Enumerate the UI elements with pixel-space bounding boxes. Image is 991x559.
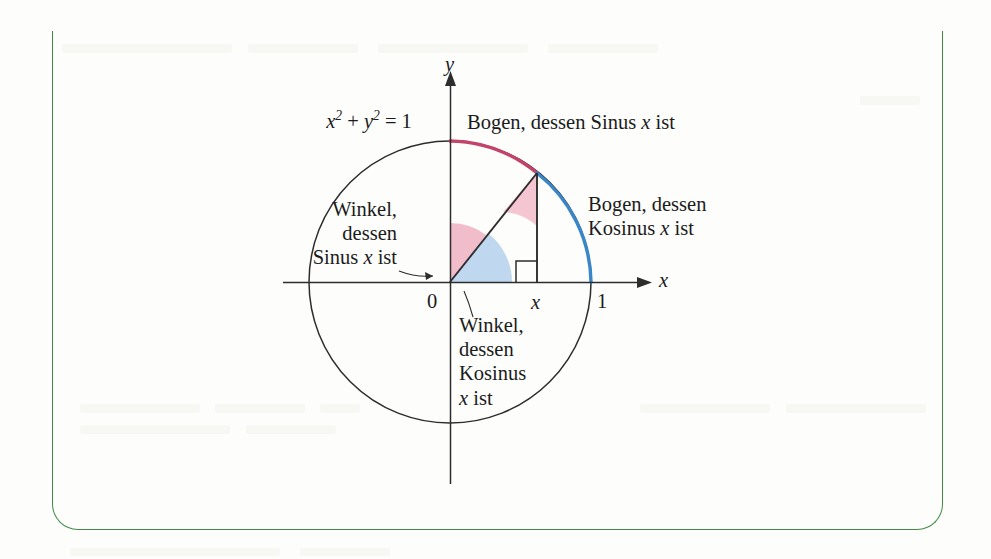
x-tick-label: x [531, 290, 540, 314]
angle-cosine-label-line-2: dessen [459, 337, 526, 361]
angle-sine-label: Winkel, dessen Sinus x ist [249, 197, 397, 270]
y-axis-label: y [445, 52, 454, 76]
angle-sine-wedge-at-point [503, 173, 537, 226]
right-angle-marker [516, 261, 537, 282]
circle-equation-label: x2 + y2 = 1 [309, 108, 429, 133]
origin-tick-label: 0 [427, 289, 437, 313]
arc-cosine-label-line-2: Kosinus x ist [588, 216, 706, 240]
x-axis-label-text: x [659, 269, 668, 291]
equation-plus: + [342, 110, 364, 132]
arc-cosine-highlight [537, 173, 591, 282]
angle-cosine-label-line-4: x ist [459, 386, 526, 410]
arc-cosine-label: Bogen, dessen Kosinus x ist [588, 192, 706, 240]
leader-angle-sine-arrowhead [425, 272, 433, 280]
angle-sine-label-line-1: Winkel, [249, 197, 397, 221]
angle-sine-label-line-3: Sinus x ist [249, 245, 397, 269]
x-axis-label: x [659, 268, 668, 292]
one-tick-label-text: 1 [597, 290, 607, 312]
x-tick-label-text: x [531, 291, 540, 313]
equation-base-x: x [326, 110, 335, 132]
x-axis-arrowhead [637, 277, 652, 288]
equation-base-y: y [364, 110, 373, 132]
y-axis-label-text: y [445, 53, 454, 75]
angle-sine-label-line-2: dessen [249, 221, 397, 245]
arc-sine-highlight [450, 141, 537, 173]
arc-cosine-label-line-1: Bogen, dessen [588, 192, 706, 216]
angle-cosine-label-line-1: Winkel, [459, 313, 526, 337]
angle-cosine-label-line-3: Kosinus [459, 361, 526, 385]
one-tick-label: 1 [597, 289, 607, 313]
unit-circle-diagram [0, 0, 991, 559]
equation-equals-one: = 1 [380, 110, 412, 132]
figure-page: x2 + y2 = 1 Bogen, dessen Sinus x ist Bo… [0, 0, 991, 559]
arc-sine-label-text: Bogen, dessen Sinus x ist [467, 111, 675, 133]
equation-exponent-2: 2 [373, 108, 380, 123]
origin-tick-label-text: 0 [427, 290, 437, 312]
arc-sine-label: Bogen, dessen Sinus x ist [467, 110, 675, 134]
angle-cosine-label: Winkel, dessen Kosinus x ist [459, 313, 526, 410]
